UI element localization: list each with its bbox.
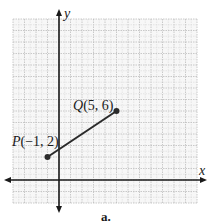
y-axis-up-arrow-icon — [56, 9, 62, 16]
point-p — [45, 154, 51, 160]
coordinate-plane: x y P(−1, 2) Q(5, 6) a. — [0, 0, 214, 224]
x-axis-label: x — [198, 163, 206, 178]
point-p-coords: (−1, 2) — [21, 134, 60, 150]
point-q-name: Q — [73, 98, 83, 113]
point-q-coords: (5, 6) — [83, 98, 114, 114]
point-q-label: Q(5, 6) — [73, 98, 114, 114]
figure-caption: a. — [101, 209, 111, 224]
y-axis-label: y — [62, 6, 71, 21]
point-p-label: P(−1, 2) — [11, 134, 59, 150]
point-q — [114, 108, 120, 114]
point-p-name: P — [11, 134, 21, 149]
y-axis-down-arrow-icon — [56, 206, 62, 213]
x-axis-left-arrow-icon — [4, 177, 11, 183]
